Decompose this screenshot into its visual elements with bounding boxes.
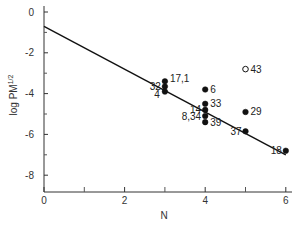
data-point-open	[243, 66, 249, 72]
data-point	[202, 107, 208, 113]
point-label: 17,1	[170, 73, 190, 84]
data-point	[202, 119, 208, 125]
point-label: 6	[210, 84, 216, 95]
data-point	[243, 109, 249, 115]
y-axis-title: log PM1/2	[7, 74, 19, 115]
scatter-chart: 0-2-4-6-80246 17,1324633148,343943293718…	[0, 0, 300, 229]
point-label: 33	[210, 98, 222, 109]
x-tick-label: 6	[283, 195, 289, 206]
x-tick-label: 2	[122, 195, 128, 206]
x-tick-label: 4	[202, 195, 208, 206]
point-label: 39	[210, 117, 222, 128]
data-point	[162, 79, 168, 85]
y-tick-label: 0	[28, 7, 34, 18]
point-label: 29	[251, 106, 263, 117]
data-point	[243, 129, 249, 135]
x-axis-title: N	[160, 210, 167, 221]
point-label: 8,34	[182, 111, 202, 122]
y-tick-label: -8	[25, 170, 34, 181]
y-tick-label: -4	[25, 88, 34, 99]
data-points: 17,1324633148,343943293718	[150, 64, 289, 157]
data-point	[202, 87, 208, 93]
data-point	[283, 148, 289, 154]
point-label: 43	[251, 64, 263, 75]
y-tick-label: -6	[25, 129, 34, 140]
point-label: 37	[230, 126, 242, 137]
x-tick-label: 0	[41, 195, 47, 206]
data-point	[162, 89, 168, 95]
data-point	[202, 101, 208, 107]
point-label: 4	[154, 89, 160, 100]
y-axis-title-sup: 1/2	[7, 74, 14, 84]
point-label: 18	[271, 145, 283, 156]
y-axis-title-main: log PM	[8, 84, 19, 115]
data-point	[202, 113, 208, 119]
data-point	[162, 84, 168, 90]
y-tick-label: -2	[25, 47, 34, 58]
